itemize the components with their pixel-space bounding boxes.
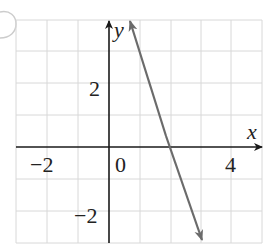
x-tick-label-0: 0 xyxy=(115,152,126,177)
coordinate-plane: y x −2 0 4 2 −2 xyxy=(0,0,265,248)
x-tick-label-neg2: −2 xyxy=(30,152,53,177)
x-tick-label-4: 4 xyxy=(225,152,236,177)
y-tick-label-neg2: −2 xyxy=(74,203,97,228)
plotted-line xyxy=(130,21,166,136)
problem-number-bubble xyxy=(0,12,16,38)
x-axis-label: x xyxy=(246,119,257,144)
y-tick-label-2: 2 xyxy=(89,76,100,101)
grid xyxy=(16,20,262,243)
y-axis-label: y xyxy=(112,17,124,42)
